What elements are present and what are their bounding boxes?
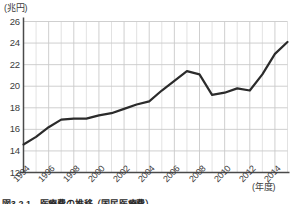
y-tick-label: 24: [3, 37, 20, 48]
y-tick-label: 14: [3, 145, 20, 156]
figure-caption: 図3-2-1 医療費の推移（国民医療費）: [2, 197, 154, 204]
y-tick-label: 26: [3, 16, 20, 27]
y-tick-label: 20: [3, 80, 20, 91]
y-tick-label: 16: [3, 123, 20, 134]
x-axis-title: (年度): [252, 180, 275, 193]
y-tick-label: 18: [3, 102, 20, 113]
y-tick-label: 22: [3, 59, 20, 70]
chart-figure: (兆円) 1214161820222426 199419961998200020…: [0, 0, 295, 204]
